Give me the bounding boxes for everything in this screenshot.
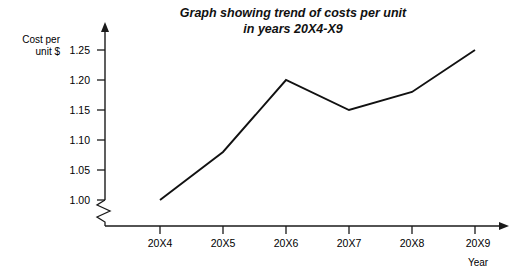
x-tick-label-20X6: 20X6 — [274, 237, 299, 249]
y-axis-break-icon — [97, 200, 110, 226]
x-tick-label-20X7: 20X7 — [337, 237, 362, 249]
y-axis-arrow-icon — [101, 22, 109, 32]
y-tick-label-1.15: 1.15 — [70, 104, 91, 116]
y-axis-title-line-1: Cost per — [22, 34, 60, 45]
x-tick-label-20X5: 20X5 — [211, 237, 236, 249]
x-tick-label-20X4: 20X4 — [148, 237, 173, 249]
x-tick-label-20X8: 20X8 — [400, 237, 425, 249]
y-tick-label-1.20: 1.20 — [70, 74, 91, 86]
y-axis-title-line-2: unit $ — [36, 46, 61, 57]
x-tick-label-20X9: 20X9 — [466, 237, 491, 249]
chart-page: Graph showing trend of costs per unit in… — [0, 0, 518, 275]
y-tick-label-1.25: 1.25 — [70, 44, 91, 56]
line-chart: Graph showing trend of costs per unit in… — [0, 0, 518, 275]
cost-per-unit-series — [160, 50, 475, 200]
chart-title-line-1: Graph showing trend of costs per unit — [180, 6, 407, 20]
y-axis — [97, 22, 110, 226]
x-axis — [105, 222, 509, 230]
y-tick-label-1.10: 1.10 — [70, 134, 91, 146]
y-tick-label-1.05: 1.05 — [70, 164, 91, 176]
x-axis-arrow-icon — [499, 222, 509, 230]
chart-title-line-2: in years 20X4-X9 — [243, 22, 342, 36]
y-tick-label-1.00: 1.00 — [70, 194, 91, 206]
x-axis-title: Year — [468, 257, 489, 268]
x-tick-marks — [160, 226, 475, 234]
y-tick-marks — [97, 50, 105, 200]
